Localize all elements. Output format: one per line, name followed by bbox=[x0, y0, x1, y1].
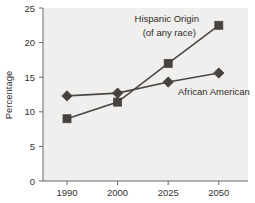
data-point-square bbox=[215, 21, 223, 29]
y-axis-tick-labels: 0510152025 bbox=[24, 3, 35, 187]
x-axis: 1990200020252050 bbox=[43, 181, 248, 198]
data-point-square bbox=[63, 115, 71, 123]
y-axis-tick-label: 0 bbox=[30, 176, 35, 187]
x-axis-tick-label: 2000 bbox=[107, 187, 128, 198]
y-axis-title: Percentage bbox=[3, 71, 14, 120]
x-axis-tick-label: 2050 bbox=[208, 187, 229, 198]
y-axis-ticks bbox=[39, 8, 43, 181]
african-american-label: African American bbox=[178, 86, 250, 97]
x-axis-ticks bbox=[67, 181, 219, 185]
hispanic-origin-label-line1: Hispanic Origin bbox=[135, 13, 199, 24]
line-chart: 0510152025 1990200020252050 Percentage H… bbox=[0, 0, 255, 203]
y-axis-tick-label: 15 bbox=[24, 72, 35, 83]
y-axis-tick-label: 10 bbox=[24, 106, 35, 117]
y-axis-tick-label: 20 bbox=[24, 37, 35, 48]
x-axis-tick-label: 2025 bbox=[158, 187, 179, 198]
data-point-square bbox=[164, 59, 172, 67]
x-axis-tick-label: 1990 bbox=[56, 187, 77, 198]
y-axis: 0510152025 bbox=[24, 3, 43, 187]
hispanic-origin-label-line2: (of any race) bbox=[143, 27, 196, 38]
y-axis-tick-label: 25 bbox=[24, 3, 35, 14]
x-axis-tick-labels: 1990200020252050 bbox=[56, 187, 229, 198]
y-axis-tick-label: 5 bbox=[30, 141, 35, 152]
data-point-square bbox=[114, 98, 122, 106]
chart-figure: 0510152025 1990200020252050 Percentage H… bbox=[0, 0, 255, 203]
